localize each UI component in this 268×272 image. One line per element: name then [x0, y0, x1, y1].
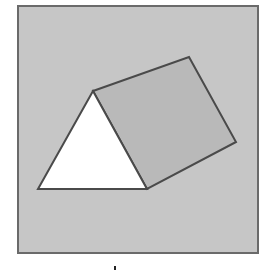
- triangle-square-diagram: [0, 0, 268, 272]
- caption-fragment: [114, 266, 116, 270]
